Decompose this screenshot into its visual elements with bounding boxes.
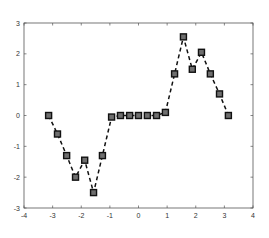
square-marker: [46, 113, 52, 119]
square-marker: [64, 153, 70, 159]
y-tick-label: 1: [16, 81, 20, 88]
x-tick-label: -3: [50, 212, 56, 219]
y-tick-label: 0: [16, 112, 20, 119]
square-marker: [189, 66, 195, 72]
y-tick-label: -2: [14, 174, 20, 181]
square-marker: [99, 153, 105, 159]
square-marker: [91, 190, 97, 196]
y-tick-label: 2: [16, 50, 20, 57]
square-marker: [198, 49, 204, 55]
square-marker: [225, 113, 231, 119]
square-marker: [154, 113, 160, 119]
square-marker: [144, 113, 150, 119]
square-marker: [117, 113, 123, 119]
square-marker: [82, 157, 88, 163]
x-tick-label: 4: [251, 212, 255, 219]
square-marker: [54, 131, 60, 137]
square-marker: [217, 91, 223, 97]
line-chart: -4-3-2-101234 -3-2-10123: [0, 0, 269, 238]
square-marker: [73, 174, 79, 180]
x-tick-label: -1: [107, 212, 113, 219]
square-marker: [127, 113, 133, 119]
square-marker: [207, 71, 213, 77]
square-marker: [180, 34, 186, 40]
x-tick-label: -4: [21, 212, 27, 219]
square-marker: [109, 114, 115, 120]
x-tick-label: 2: [194, 212, 198, 219]
square-marker: [162, 109, 168, 115]
y-tick-label: -1: [14, 143, 20, 150]
square-marker: [172, 71, 178, 77]
x-tick-label: 1: [165, 212, 169, 219]
y-tick-label: -3: [14, 205, 20, 212]
x-tick-label: -2: [78, 212, 84, 219]
y-tick-label: 3: [16, 20, 20, 27]
x-tick-label: 3: [222, 212, 226, 219]
x-tick-label: 0: [137, 212, 141, 219]
square-marker: [136, 113, 142, 119]
